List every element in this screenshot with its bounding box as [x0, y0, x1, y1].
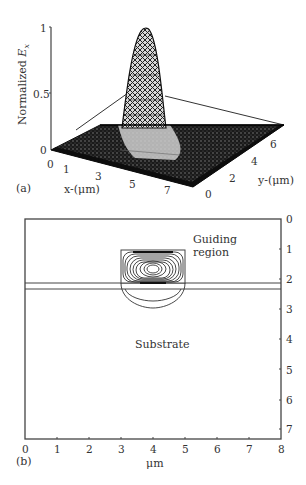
width-tick-1: 1	[54, 443, 61, 455]
guiding-region-label-1: Guiding	[193, 234, 237, 246]
depth-tick-4: 4	[286, 333, 293, 345]
mode-contours	[119, 252, 187, 308]
width-tick-0: 0	[22, 443, 29, 455]
width-tick-6: 6	[214, 443, 221, 455]
depth-tick-7: 7	[286, 423, 293, 435]
panel-b-contour-plot	[0, 0, 306, 485]
depth-tick-1: 1	[286, 243, 293, 255]
substrate-label: Substrate	[135, 339, 189, 351]
depth-tick-5: 5	[286, 364, 293, 376]
width-tick-7: 7	[246, 443, 253, 455]
width-tick-5: 5	[182, 443, 189, 455]
depth-tick-3: 3	[286, 303, 293, 315]
guiding-region-label-2: region	[193, 247, 229, 259]
depth-tick-0: 0	[286, 213, 293, 225]
panel-b-x-label: μm	[146, 458, 164, 470]
width-tick-4: 4	[150, 443, 157, 455]
width-tick-2: 2	[86, 443, 93, 455]
depth-tick-6: 6	[286, 394, 293, 406]
width-tick-3: 3	[118, 443, 125, 455]
depth-tick-2: 2	[286, 273, 293, 285]
panel-b-tag: (b)	[16, 456, 32, 468]
width-tick-8: 8	[278, 443, 285, 455]
